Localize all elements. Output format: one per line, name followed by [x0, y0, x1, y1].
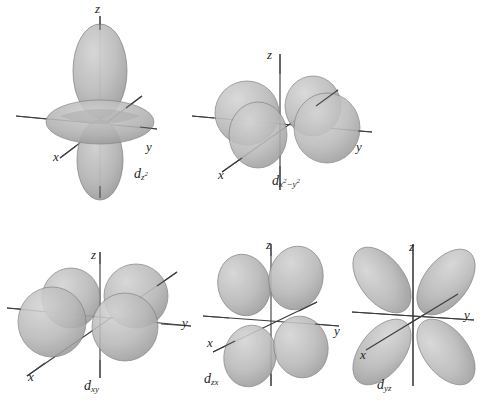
- dzx-label-d: d: [204, 371, 211, 386]
- orbital-label-dxy: dxy: [84, 379, 99, 394]
- y-axis-left: [16, 116, 46, 119]
- dx2y2-label-d: d: [272, 173, 279, 188]
- dzx-y-axis-label: y: [334, 324, 340, 337]
- dzx-x-axis-label: x: [207, 336, 213, 349]
- lobe-upper-left: [211, 249, 276, 322]
- dz2-label-d: d: [134, 166, 141, 181]
- y-axis-left: [7, 308, 21, 309]
- dyz-y-axis-label: y: [464, 308, 470, 321]
- dx2y2-label-sub2: −y: [287, 179, 297, 189]
- orbital-label-dz2: dz2: [134, 167, 148, 182]
- lobe-lower-left: [218, 320, 282, 391]
- d-orbital-figure: z x y dz2: [0, 0, 485, 414]
- lobe-upper-right: [263, 241, 329, 315]
- lobe-upper-right: [405, 239, 485, 326]
- dz2-x-axis-label: x: [53, 150, 59, 163]
- lobe-front-left: [18, 287, 86, 357]
- dyz-label-sub: yz: [384, 383, 392, 393]
- dz2-y-axis-label: y: [146, 140, 152, 153]
- dx2y2-z-axis-label: z: [267, 48, 272, 61]
- dxy-y-axis-label: y: [182, 316, 188, 329]
- y-axis-left: [203, 316, 229, 318]
- dz2-label-exp: 2: [145, 170, 149, 178]
- y-axis-left: [192, 116, 214, 118]
- orbital-label-dzx: dzx: [204, 372, 219, 387]
- orbital-label-dyz: dyz: [377, 378, 392, 393]
- orbital-dxy-drawing: [5, 250, 200, 390]
- orbital-dzx-drawing: [195, 240, 345, 390]
- dx2y2-label-exp2: 2: [297, 177, 301, 185]
- x-axis-near: [60, 146, 76, 158]
- orbital-label-dx2y2: dx2−y2: [272, 174, 300, 189]
- dyz-z-axis-label: z: [409, 240, 414, 253]
- dyz-label-d: d: [377, 377, 384, 392]
- x-axis-near: [222, 158, 242, 172]
- dz2-z-axis-label: z: [95, 2, 100, 15]
- orbital-dz2: [0, 0, 200, 205]
- orbital-dzx: [195, 240, 345, 390]
- dxy-z-axis-label: z: [91, 248, 96, 261]
- dzx-label-sub: zx: [211, 377, 219, 387]
- orbital-dz2-drawing: [0, 0, 200, 205]
- lobe-y-negative: [229, 102, 287, 168]
- dx2y2-y-axis-label: y: [356, 140, 362, 153]
- lobe-lower-right: [405, 309, 485, 396]
- dyz-x-axis-label: x: [360, 348, 366, 361]
- dxy-x-axis-label: x: [28, 370, 34, 383]
- dx2y2-x-axis-label: x: [218, 168, 224, 181]
- orbital-dxy: [5, 250, 200, 390]
- dxy-label-sub: xy: [91, 384, 99, 394]
- dxy-label-d: d: [84, 378, 91, 393]
- dzx-z-axis-label: z: [266, 238, 271, 251]
- lobe-y-positive: [294, 93, 360, 163]
- lobe-front-right: [92, 293, 158, 361]
